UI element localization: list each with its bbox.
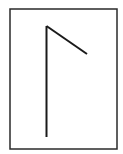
- frame-border: [10, 9, 117, 149]
- rune-figure: [0, 0, 123, 154]
- rune-branch: [47, 26, 88, 54]
- laguz-rune-icon: [47, 26, 88, 137]
